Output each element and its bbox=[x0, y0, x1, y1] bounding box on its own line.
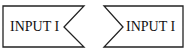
input-shape-right-label: INPUT I bbox=[126, 20, 175, 34]
input-shape-left-label: INPUT I bbox=[10, 20, 59, 34]
